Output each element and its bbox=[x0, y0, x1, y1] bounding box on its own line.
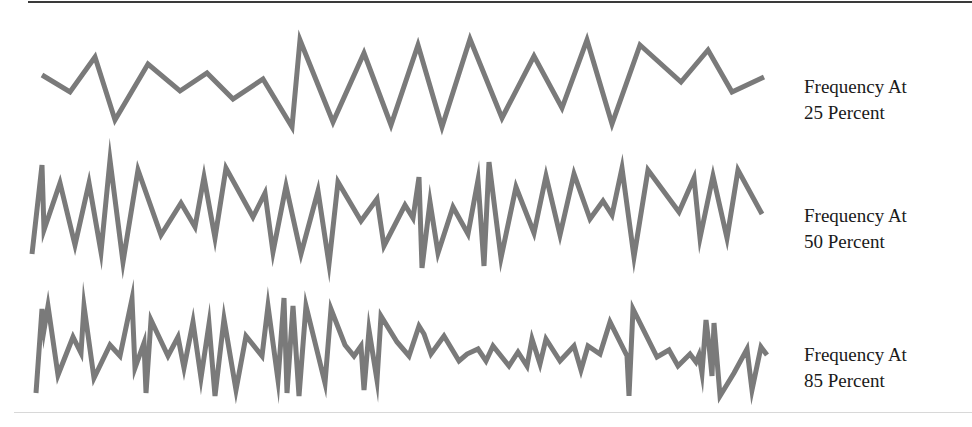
label-line-2: 85 Percent bbox=[804, 368, 907, 394]
waveform-50-percent bbox=[32, 160, 762, 268]
waveform-25-percent bbox=[42, 39, 764, 127]
label-line-1: Frequency At bbox=[804, 203, 907, 229]
label-frequency-25: Frequency At 25 Percent bbox=[804, 74, 907, 126]
label-line-1: Frequency At bbox=[804, 74, 907, 100]
label-frequency-50: Frequency At 50 Percent bbox=[804, 203, 907, 255]
label-line-2: 50 Percent bbox=[804, 229, 907, 255]
waveform-85-percent bbox=[36, 298, 767, 396]
label-frequency-85: Frequency At 85 Percent bbox=[804, 342, 907, 394]
label-line-2: 25 Percent bbox=[804, 100, 907, 126]
label-line-1: Frequency At bbox=[804, 342, 907, 368]
